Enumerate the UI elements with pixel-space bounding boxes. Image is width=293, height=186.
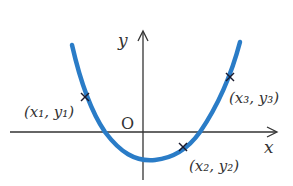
- y-axis-label: y: [117, 30, 128, 50]
- origin-label: O: [121, 114, 134, 133]
- x-axis-label: x: [264, 137, 274, 157]
- point-2-label: (x₂, y₂): [189, 157, 239, 175]
- parabola-curve: [72, 42, 240, 160]
- point-1-label: (x₁, y₁): [24, 103, 74, 121]
- diagram-canvas: y O x (x₁, y₁) (x₂, y₂) (x₃, y₃): [0, 0, 293, 186]
- point-3-label: (x₃, y₃): [229, 89, 279, 107]
